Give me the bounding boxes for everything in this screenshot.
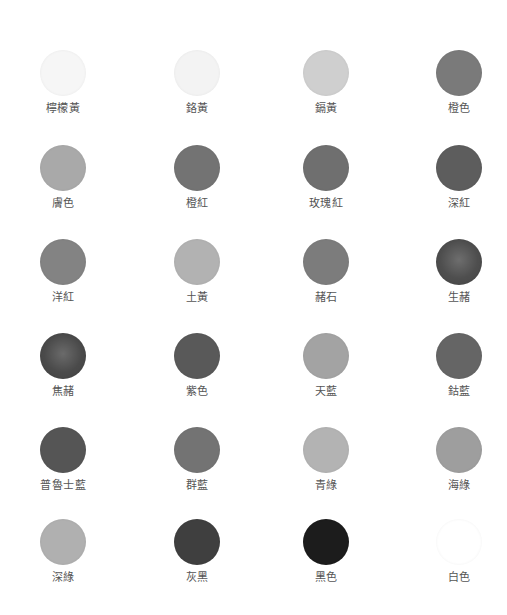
color-swatch-item: 赭石 — [271, 239, 381, 319]
color-swatch-item: 深紅 — [404, 145, 507, 225]
color-name-label: 鈷藍 — [448, 385, 471, 398]
color-swatch-item: 普魯士藍 — [8, 427, 118, 507]
paint-swatch-circle — [174, 145, 220, 191]
paint-swatch-circle — [436, 239, 482, 285]
paint-swatch-circle — [40, 519, 86, 565]
paint-swatch-circle — [174, 239, 220, 285]
color-name-label: 生赭 — [448, 291, 471, 304]
color-name-label: 洋紅 — [52, 291, 75, 304]
color-swatch-item: 生赭 — [404, 239, 507, 319]
color-swatch-grid: 檸檬黃鉻黃鎘黃橙色膚色橙紅玫瑰紅深紅洋紅土黃赭石生赭焦赭紫色天藍鈷藍普魯士藍群藍… — [0, 0, 507, 615]
paint-swatch-circle — [436, 519, 482, 565]
color-name-label: 鎘黃 — [315, 102, 338, 115]
color-name-label: 橙紅 — [186, 197, 209, 210]
color-swatch-item: 鎘黃 — [271, 50, 381, 130]
color-name-label: 海綠 — [448, 479, 471, 492]
paint-swatch-circle — [40, 50, 86, 96]
color-swatch-item: 海綠 — [404, 427, 507, 507]
color-swatch-item: 紫色 — [142, 333, 252, 413]
color-name-label: 青綠 — [315, 479, 338, 492]
paint-swatch-circle — [303, 427, 349, 473]
paint-swatch-circle — [303, 145, 349, 191]
color-name-label: 深紅 — [448, 197, 471, 210]
paint-swatch-circle — [303, 239, 349, 285]
paint-swatch-circle — [40, 145, 86, 191]
color-name-label: 赭石 — [315, 291, 338, 304]
color-name-label: 焦赭 — [52, 385, 75, 398]
paint-swatch-circle — [40, 427, 86, 473]
paint-swatch-circle — [436, 427, 482, 473]
color-name-label: 天藍 — [315, 385, 338, 398]
color-name-label: 灰黑 — [186, 571, 209, 584]
color-swatch-item: 焦赭 — [8, 333, 118, 413]
color-name-label: 黑色 — [315, 571, 338, 584]
color-swatch-item: 橙色 — [404, 50, 507, 130]
paint-swatch-circle — [40, 333, 86, 379]
color-name-label: 橙色 — [448, 102, 471, 115]
color-swatch-item: 白色 — [404, 519, 507, 599]
paint-swatch-circle — [303, 50, 349, 96]
color-name-label: 鉻黃 — [186, 102, 209, 115]
paint-swatch-circle — [174, 519, 220, 565]
paint-swatch-circle — [174, 50, 220, 96]
color-name-label: 深綠 — [52, 571, 75, 584]
paint-swatch-circle — [436, 145, 482, 191]
color-name-label: 紫色 — [186, 385, 209, 398]
color-name-label: 白色 — [448, 571, 471, 584]
color-swatch-item: 黑色 — [271, 519, 381, 599]
paint-swatch-circle — [303, 519, 349, 565]
color-swatch-item: 土黃 — [142, 239, 252, 319]
color-swatch-item: 群藍 — [142, 427, 252, 507]
color-name-label: 群藍 — [186, 479, 209, 492]
color-swatch-item: 檸檬黃 — [8, 50, 118, 130]
paint-swatch-circle — [436, 333, 482, 379]
color-name-label: 膚色 — [52, 197, 75, 210]
paint-swatch-circle — [174, 333, 220, 379]
paint-swatch-circle — [174, 427, 220, 473]
paint-swatch-circle — [303, 333, 349, 379]
color-swatch-item: 洋紅 — [8, 239, 118, 319]
color-swatch-item: 玫瑰紅 — [271, 145, 381, 225]
color-name-label: 玫瑰紅 — [309, 197, 344, 210]
color-swatch-item: 青綠 — [271, 427, 381, 507]
color-name-label: 土黃 — [186, 291, 209, 304]
color-swatch-item: 鈷藍 — [404, 333, 507, 413]
color-name-label: 檸檬黃 — [46, 102, 81, 115]
color-swatch-item: 膚色 — [8, 145, 118, 225]
color-swatch-item: 灰黑 — [142, 519, 252, 599]
color-swatch-item: 深綠 — [8, 519, 118, 599]
color-swatch-item: 橙紅 — [142, 145, 252, 225]
color-swatch-item: 天藍 — [271, 333, 381, 413]
paint-swatch-circle — [40, 239, 86, 285]
paint-swatch-circle — [436, 50, 482, 96]
color-swatch-item: 鉻黃 — [142, 50, 252, 130]
color-name-label: 普魯士藍 — [40, 479, 86, 492]
